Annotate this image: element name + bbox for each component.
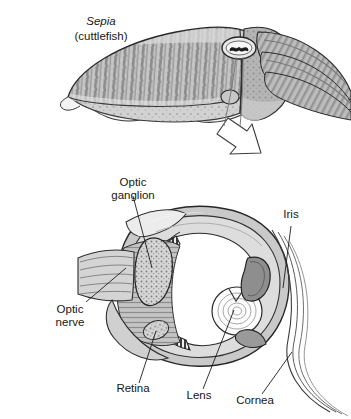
scientific-figure: Sepia (cuttlefish): [0, 0, 351, 419]
label-iris: Iris: [283, 208, 299, 220]
label-cornea: Cornea: [236, 394, 274, 406]
label-optic-nerve-line1: Optic: [57, 303, 84, 315]
label-optic-ganglion-line2: ganglion: [111, 189, 154, 201]
label-optic-ganglion-line1: Optic: [120, 176, 147, 188]
common-name: (cuttlefish): [74, 30, 127, 42]
label-optic-nerve-line2: nerve: [56, 316, 85, 328]
species-name: Sepia: [86, 15, 115, 27]
label-retina: Retina: [116, 382, 150, 394]
label-lens: Lens: [187, 389, 212, 401]
figure-root: Sepia (cuttlefish): [0, 0, 351, 419]
